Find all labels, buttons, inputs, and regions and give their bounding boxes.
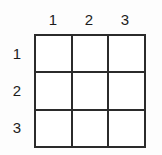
column-header-2: 2	[79, 11, 99, 29]
grid-cell[interactable]	[109, 111, 146, 148]
grid-cell[interactable]	[109, 73, 146, 110]
grid-cell[interactable]	[73, 111, 110, 148]
grid-cell[interactable]	[36, 111, 73, 148]
column-header-1: 1	[43, 11, 63, 29]
grid-cell[interactable]	[73, 73, 110, 110]
grid-cell[interactable]	[36, 36, 73, 73]
row-header-1: 1	[8, 45, 26, 63]
grid-cell[interactable]	[36, 73, 73, 110]
grid-cell[interactable]	[73, 36, 110, 73]
grid-figure: 1 2 3 1 2 3	[0, 0, 162, 155]
grid-cell[interactable]	[109, 36, 146, 73]
row-header-3: 3	[8, 119, 26, 137]
column-header-3: 3	[115, 11, 135, 29]
row-header-2: 2	[8, 82, 26, 100]
grid-table	[34, 34, 146, 148]
